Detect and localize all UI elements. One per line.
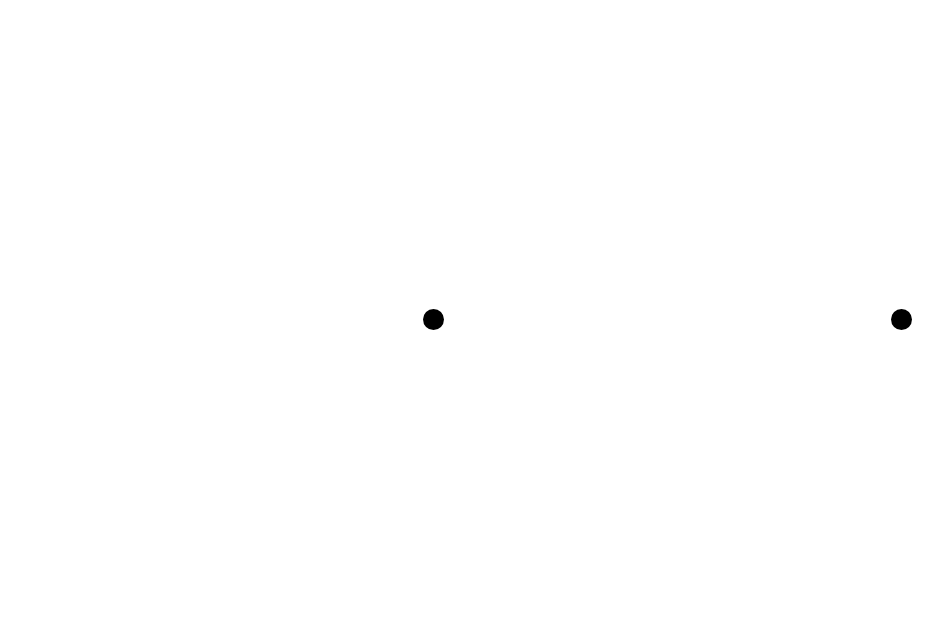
black-dot-right xyxy=(891,309,912,330)
blank-canvas xyxy=(0,0,940,634)
black-dot-left xyxy=(423,309,444,330)
